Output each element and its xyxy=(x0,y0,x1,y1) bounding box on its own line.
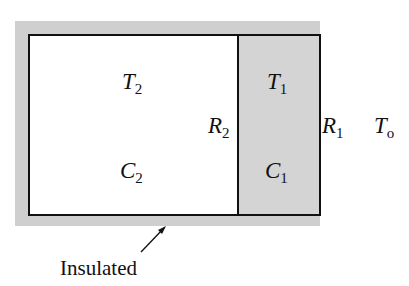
insulated-label: Insulated xyxy=(60,258,137,279)
insulated-arrow-icon xyxy=(0,0,409,286)
